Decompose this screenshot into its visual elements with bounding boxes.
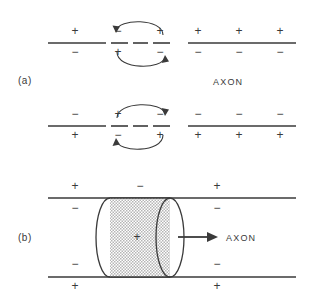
cylinder-interior-charge-sign: + [131,231,143,243]
charge-sign: − [69,202,81,214]
propagation-arrow-head [207,232,218,242]
axon-action-potential-figure: (a) AXON + − + + + + − + − − − − [0,0,312,308]
charge-sign: + [211,280,223,292]
charge-sign: − [211,258,223,270]
charge-sign: − [134,180,146,192]
panel-b-axon-drawing [0,0,312,308]
charge-sign: + [211,180,223,192]
charge-sign: + [69,180,81,192]
charge-sign: + [69,280,81,292]
charge-sign: − [211,202,223,214]
charge-sign: − [69,258,81,270]
cylinder-left-cap [96,198,110,277]
